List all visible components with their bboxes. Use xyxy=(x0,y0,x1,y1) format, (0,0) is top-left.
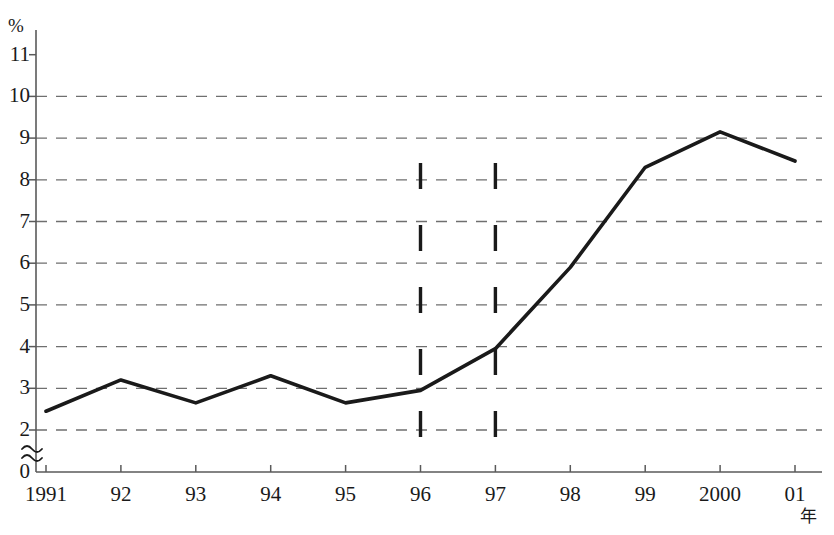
x-tick-label: 99 xyxy=(635,484,656,505)
y-tick-label: 2 xyxy=(0,419,30,440)
y-tick-label: 8 xyxy=(0,169,30,190)
y-tick-label: 9 xyxy=(0,127,30,148)
y-tick-marks-group xyxy=(29,55,36,430)
x-tick-label: 1991 xyxy=(25,484,67,505)
x-tick-label: 01 xyxy=(785,484,806,505)
y-tick-label: 10 xyxy=(0,85,30,106)
x-tick-label: 92 xyxy=(110,484,131,505)
x-tick-label: 97 xyxy=(485,484,506,505)
y-tick-label: 11 xyxy=(0,44,30,65)
x-tick-label: 98 xyxy=(560,484,581,505)
x-tick-marks-group xyxy=(46,465,795,472)
gridlines-group xyxy=(36,96,822,430)
x-tick-label: 95 xyxy=(335,484,356,505)
y-tick-label: 4 xyxy=(0,336,30,357)
x-tick-label: 2000 xyxy=(699,484,741,505)
vertical-marker-lines-group xyxy=(421,163,496,457)
x-tick-label: 93 xyxy=(185,484,206,505)
x-tick-label: 96 xyxy=(410,484,431,505)
chart-container: % 年 0234567891011 1991929394959697989920… xyxy=(0,0,834,535)
y-tick-label: 7 xyxy=(0,211,30,232)
x-tick-label: 94 xyxy=(260,484,281,505)
axis-break-squiggle xyxy=(22,446,42,452)
y-tick-label: 6 xyxy=(0,252,30,273)
y-tick-label: 0 xyxy=(0,461,30,482)
y-tick-label: 5 xyxy=(0,294,30,315)
chart-plot-area xyxy=(0,0,834,535)
y-tick-label: 3 xyxy=(0,377,30,398)
